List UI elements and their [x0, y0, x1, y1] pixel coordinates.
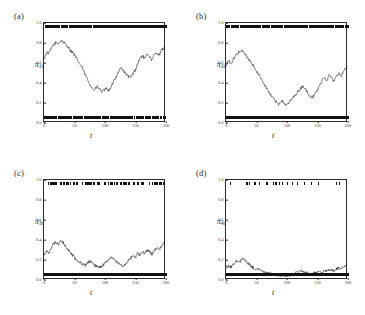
rug-mark-top — [164, 182, 165, 185]
rug-mark-top — [287, 182, 288, 185]
x-tick-label: 0 — [43, 124, 45, 128]
rug-mark-top — [276, 182, 277, 185]
x-tick-label: 50 — [254, 281, 258, 285]
x-tick-label: 100 — [102, 281, 109, 285]
rug-mark-top — [121, 182, 122, 185]
rug-mark-bottom — [166, 273, 167, 276]
rug-mark-top — [67, 25, 68, 28]
panel-b-plot-area: 0.00.20.40.60.81.0050100150200 — [225, 22, 347, 122]
y-tick-label: 0.2 — [218, 258, 224, 262]
x-tick-label: 0 — [225, 281, 227, 285]
rug-mark-top — [117, 182, 118, 185]
rug-mark-top — [259, 182, 260, 185]
y-tick-label: 1.0 — [36, 21, 42, 25]
rug-mark-bottom — [348, 116, 349, 119]
x-tick-label: 0 — [225, 124, 227, 128]
rug-mark-top — [348, 25, 349, 28]
rug-mark-top — [336, 182, 337, 185]
y-tick-label: 0.2 — [36, 101, 42, 105]
x-tick-label: 150 — [132, 124, 139, 128]
y-tick-label: 1.0 — [36, 178, 42, 182]
rug-mark-top — [166, 25, 167, 28]
rug-mark-top — [230, 182, 231, 185]
y-tick-label: 0.2 — [218, 101, 224, 105]
panel-c: (c) π3t 0.00.20.40.60.81.0050100150200 t — [0, 157, 182, 314]
rug-mark-top — [134, 182, 135, 185]
x-tick-label: 200 — [345, 124, 352, 128]
rug-mark-top — [56, 182, 57, 185]
y-tick-label: 1.0 — [218, 178, 224, 182]
rug-mark-top — [318, 182, 319, 185]
y-tick-label: 0.6 — [36, 61, 42, 65]
rug-mark-bottom — [348, 273, 349, 276]
x-tick-label: 100 — [102, 124, 109, 128]
x-tick-label: 150 — [314, 281, 321, 285]
rug-mark-top — [157, 182, 158, 185]
rug-mark-top — [249, 182, 250, 185]
x-tick-label: 200 — [163, 124, 170, 128]
rug-mark-top — [339, 182, 340, 185]
panel-a-xlabel: t — [0, 131, 182, 140]
panel-d-xlabel: t — [182, 288, 364, 297]
panel-b: (b) π2t 0.00.20.40.60.81.0050100150200 t — [182, 0, 364, 157]
rug-mark-bottom — [132, 116, 133, 119]
rug-mark-top — [269, 25, 270, 28]
figure-canvas: (a) π1t 0.00.20.40.60.81.0050100150200 t… — [0, 0, 365, 315]
y-tick-label: 0.4 — [218, 238, 224, 242]
rug-mark-top — [143, 182, 144, 185]
x-tick-label: 50 — [72, 281, 76, 285]
y-tick-label: 0.8 — [218, 41, 224, 45]
x-tick-label: 100 — [284, 124, 291, 128]
panel-c-label: (c) — [14, 168, 24, 178]
panel-a-plot-area: 0.00.20.40.60.81.0050100150200 — [43, 22, 165, 122]
y-tick-label: 0.0 — [218, 121, 224, 125]
panel-b-xlabel: t — [182, 131, 364, 140]
panel-a: (a) π1t 0.00.20.40.60.81.0050100150200 t — [0, 0, 182, 157]
rug-mark-top — [129, 182, 130, 185]
rug-mark-top — [282, 182, 283, 185]
panel-a-label: (a) — [14, 11, 24, 21]
panel-d-plot-area: 0.00.20.40.60.81.0050100150200 — [225, 179, 347, 279]
y-tick-label: 0.2 — [36, 258, 42, 262]
rug-mark-top — [273, 182, 274, 185]
rug-mark-top — [61, 182, 62, 185]
rug-mark-bottom — [165, 116, 166, 119]
y-tick-label: 0.8 — [218, 198, 224, 202]
y-tick-label: 0.0 — [36, 121, 42, 125]
x-tick-label: 100 — [284, 281, 291, 285]
y-tick-label: 0.8 — [36, 198, 42, 202]
y-tick-label: 0.6 — [218, 61, 224, 65]
rug-mark-top — [304, 182, 305, 185]
y-tick-label: 0.6 — [36, 218, 42, 222]
panel-c-plot-area: 0.00.20.40.60.81.0050100150200 — [43, 179, 165, 279]
x-tick-label: 150 — [132, 281, 139, 285]
rug-mark-top — [297, 182, 298, 185]
x-tick-label: 50 — [72, 124, 76, 128]
y-tick-label: 0.4 — [36, 81, 42, 85]
x-tick-label: 200 — [163, 281, 170, 285]
series-line — [44, 23, 164, 121]
rug-mark-top — [255, 182, 256, 185]
y-tick-label: 0.4 — [218, 81, 224, 85]
x-tick-label: 200 — [345, 281, 352, 285]
y-tick-label: 0.8 — [36, 41, 42, 45]
rug-mark-top — [267, 182, 268, 185]
x-tick-label: 150 — [314, 124, 321, 128]
panel-c-xlabel: t — [0, 288, 182, 297]
rug-mark-top — [149, 182, 150, 185]
series-line — [226, 180, 346, 278]
y-tick-label: 0.0 — [218, 278, 224, 282]
rug-mark-top — [292, 182, 293, 185]
rug-mark-top — [105, 182, 106, 185]
series-line — [226, 23, 346, 121]
rug-mark-top — [94, 182, 95, 185]
y-tick-label: 0.6 — [218, 218, 224, 222]
rug-mark-bottom — [150, 116, 151, 119]
rug-mark-top — [114, 182, 115, 185]
rug-mark-top — [112, 182, 113, 185]
x-tick-label: 0 — [43, 281, 45, 285]
rug-mark-top — [311, 182, 312, 185]
rug-mark-top — [59, 25, 60, 28]
rug-mark-top — [138, 182, 139, 185]
panel-b-label: (b) — [196, 11, 207, 21]
